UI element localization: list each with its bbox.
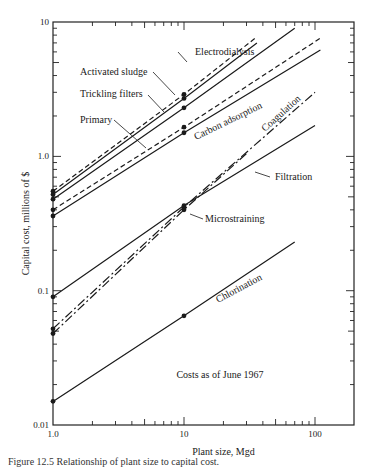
y-axis-title: Capital cost, millions of $ — [20, 172, 31, 276]
label-pointer — [148, 95, 164, 112]
label-pointer — [178, 52, 187, 62]
data-point — [51, 214, 56, 219]
x-tick-label: 10 — [180, 429, 190, 439]
data-point — [51, 399, 56, 404]
label-pointer — [190, 214, 203, 219]
data-point — [182, 207, 187, 212]
series-label: Chlorination — [214, 271, 264, 304]
data-point — [51, 331, 56, 336]
data-point — [182, 130, 187, 135]
data-point — [51, 294, 56, 299]
y-tick-label: 0.1 — [38, 286, 49, 296]
x-tick-label: 100 — [308, 429, 322, 439]
data-point — [51, 192, 56, 197]
cost-chart: 1.0101000.010.11.010Plant size, MgdCapit… — [0, 0, 375, 470]
data-point — [182, 92, 187, 97]
series-label: Trickling filters — [80, 88, 143, 99]
y-tick-label: 1.0 — [38, 151, 50, 161]
data-point — [51, 326, 56, 331]
plot-series — [51, 28, 321, 404]
y-tick-label: 10 — [40, 17, 50, 27]
series-label: Activated sludge — [80, 66, 148, 77]
data-point — [182, 203, 187, 208]
costs-annotation: Costs as of June 1967 — [176, 369, 263, 380]
label-pointer — [114, 120, 146, 148]
figure-caption: Figure 12.5 Relationship of plant size t… — [8, 456, 219, 467]
x-tick-label: 1.0 — [47, 429, 59, 439]
series-line-microstraining — [53, 154, 247, 334]
plot-frame — [53, 22, 354, 425]
data-point — [182, 96, 187, 101]
series-label: Coagulation — [259, 93, 303, 134]
label-pointer — [153, 72, 175, 95]
series-label: Filtration — [275, 171, 312, 182]
label-pointer — [255, 172, 270, 177]
plot-axes: 1.0101000.010.11.010Plant size, MgdCapit… — [20, 17, 354, 457]
data-point — [182, 105, 187, 110]
data-point — [51, 197, 56, 202]
series-label: Electrodialysis — [195, 46, 255, 57]
data-point — [182, 125, 187, 130]
series-label: Microstraining — [205, 213, 264, 224]
y-tick-label: 0.01 — [33, 420, 49, 430]
data-point — [182, 313, 187, 318]
series-label: Primary — [80, 114, 112, 125]
data-point — [51, 207, 56, 212]
